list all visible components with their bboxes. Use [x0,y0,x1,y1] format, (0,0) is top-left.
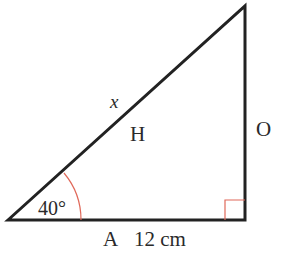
angle-arc [64,173,81,220]
hypotenuse-variable: x [109,91,119,112]
angle-label: 40° [38,197,66,219]
opposite-label: O [256,117,271,141]
hypotenuse-label: H [130,122,145,146]
adjacent-label: A [103,227,119,251]
triangle-diagram: 40° x H O A 12 cm [0,0,290,271]
right-angle-marker [225,200,245,220]
triangle-outline [8,6,245,220]
adjacent-length: 12 cm [134,227,186,251]
